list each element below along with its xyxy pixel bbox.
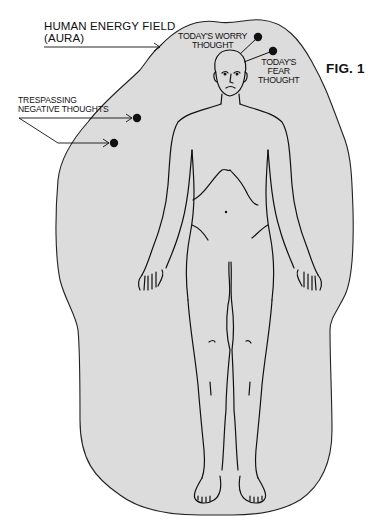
- aura-field-shape: [56, 20, 353, 515]
- aura-label-line1: HUMAN ENERGY FIELD: [44, 20, 175, 32]
- aura-diagram: [0, 0, 387, 530]
- fear-thought-label: TODAY'S FEAR THOUGHT: [258, 58, 299, 86]
- trespassing-label: TRESPASSING NEGATIVE THOUGHTS: [18, 96, 109, 114]
- fear-thought-dot: [269, 47, 277, 55]
- negative-thought-dot-2: [110, 139, 118, 147]
- figure-number-label: FIG. 1: [326, 62, 365, 76]
- fear-label-line3: THOUGHT: [258, 76, 299, 85]
- worry-label-line2: THOUGHT: [178, 41, 247, 50]
- aura-label: HUMAN ENERGY FIELD (AURA): [44, 20, 175, 44]
- aura-pointer-arrow: [44, 43, 160, 51]
- worry-thought-label: TODAY'S WORRY THOUGHT: [178, 32, 247, 50]
- aura-label-line2: (AURA): [44, 32, 175, 44]
- negative-thought-dot-1: [133, 114, 141, 122]
- trespassing-label-line2: NEGATIVE THOUGHTS: [18, 105, 109, 114]
